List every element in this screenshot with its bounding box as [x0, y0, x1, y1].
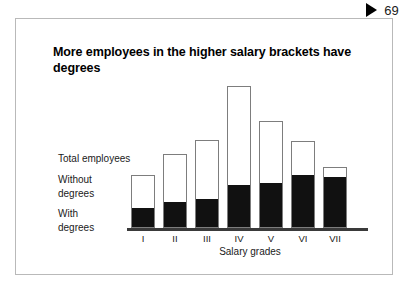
figure-frame: More employees in the higher salary brac… — [15, 18, 393, 275]
bar-iv — [227, 86, 251, 228]
page-marker: 69 — [366, 2, 399, 18]
bar-segment-with-degrees — [324, 177, 346, 227]
bar-segment-with-degrees — [196, 199, 218, 227]
bar-vii — [323, 167, 347, 228]
bar-ii — [163, 154, 187, 228]
bar-segment-with-degrees — [292, 175, 314, 227]
x-axis-title: Salary grades — [16, 246, 392, 257]
chart-plot-area: Total employees Without degrees With deg… — [16, 19, 392, 274]
bar-segment-with-degrees — [132, 208, 154, 227]
series-label-without-degrees: Without degrees — [58, 173, 94, 200]
series-label-with-degrees: With degrees — [58, 207, 94, 234]
bar-iii — [195, 140, 219, 228]
bar-i — [131, 175, 155, 228]
bar-segment-with-degrees — [164, 202, 186, 227]
bar-v — [259, 121, 283, 228]
category-label-vii: VII — [315, 233, 355, 244]
series-label-total-employees: Total employees — [58, 152, 130, 166]
x-axis-line — [127, 228, 368, 231]
bar-segment-with-degrees — [228, 185, 250, 227]
x-axis-title-text: Salary grades — [127, 246, 281, 257]
play-triangle-icon — [366, 3, 377, 17]
bar-segment-with-degrees — [260, 183, 282, 227]
bar-vi — [291, 141, 315, 228]
page-number: 69 — [384, 3, 399, 18]
